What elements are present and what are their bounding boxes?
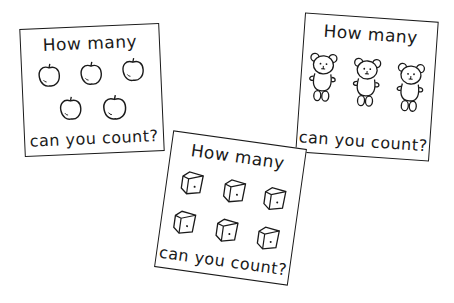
counting-card-apples: How many can you count?: [19, 23, 164, 157]
card-footer: can you count?: [297, 127, 430, 155]
die-cube-icon: [212, 216, 241, 245]
card-title: How many: [304, 20, 437, 49]
die-cube-icon: [260, 184, 289, 213]
teddy-bear-icon: [393, 62, 427, 116]
apple-group: [22, 56, 163, 124]
teddy-bear-icon: [349, 57, 383, 111]
apple-icon: [78, 60, 105, 87]
die-cube-icon: [170, 208, 199, 237]
bear-group: [299, 45, 436, 128]
apple-icon: [57, 95, 84, 122]
die-cube-icon: [177, 169, 206, 198]
teddy-bear-icon: [306, 52, 340, 106]
counting-card-dice: How many can you count?: [154, 130, 307, 285]
card-footer: can you count?: [25, 126, 164, 151]
dice-group: [160, 163, 302, 253]
die-cube-icon: [253, 224, 282, 253]
apple-icon: [36, 62, 63, 89]
apple-icon: [100, 93, 129, 122]
counting-card-bears: How many can you count?: [295, 12, 438, 161]
die-cube-icon: [220, 177, 249, 206]
apple-icon: [120, 57, 147, 84]
card-title: How many: [21, 30, 160, 56]
